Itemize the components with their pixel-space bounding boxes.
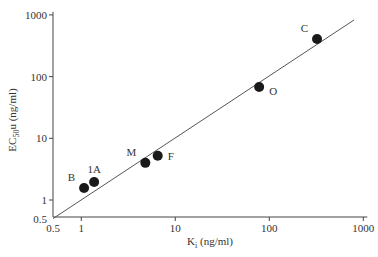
point-label: F	[168, 150, 174, 162]
y-tick-label: 1	[42, 194, 48, 206]
x-axis-label: Ki (ng/ml)	[187, 235, 233, 250]
data-point	[312, 34, 322, 44]
point-label: B	[68, 171, 75, 183]
point-label: O	[269, 85, 277, 97]
point-label: M	[127, 146, 137, 158]
data-point	[254, 82, 264, 92]
y-tick-label: 1000	[25, 9, 48, 21]
y-tick-label: 0.5	[33, 213, 47, 225]
x-tick-label: 0.5	[46, 222, 60, 234]
data-point	[89, 177, 99, 187]
y-axis-label: EC50u (ng/ml)	[6, 88, 21, 152]
y-tick-label: 100	[31, 71, 48, 83]
point-label: 1A	[87, 163, 101, 175]
data-point	[79, 183, 89, 193]
x-tick-label: 1000	[352, 222, 375, 234]
x-tick-label: 1	[79, 222, 85, 234]
x-tick-label: 100	[261, 222, 278, 234]
point-label: C	[301, 22, 308, 34]
data-point	[153, 151, 163, 161]
fit-line	[53, 20, 354, 219]
y-tick-label: 10	[36, 132, 48, 144]
data-points: B1AMFOC	[68, 22, 322, 193]
x-tick-label: 10	[170, 222, 182, 234]
scatter-chart: 0.511010010000.51101001000 B1AMFOC Ki (n…	[0, 0, 378, 257]
data-point	[140, 158, 150, 168]
